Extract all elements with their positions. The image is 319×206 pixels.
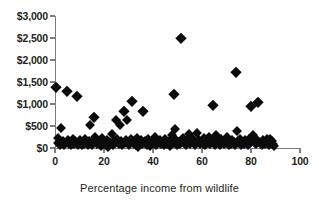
x-axis-title: Percentage income from wildlife <box>0 182 319 194</box>
scatter-point <box>56 123 66 133</box>
scatter-point <box>71 90 82 101</box>
scatter-chart-figure: $0$500$1,000$1,500$2,000$2,500$3,000 020… <box>0 0 319 206</box>
data-points-layer <box>0 0 319 206</box>
scatter-point <box>61 85 72 96</box>
scatter-point <box>127 96 138 107</box>
plot-area: $0$500$1,000$1,500$2,000$2,500$3,000 020… <box>0 0 319 206</box>
scatter-point <box>208 100 219 111</box>
scatter-point <box>175 32 186 43</box>
scatter-point <box>231 67 242 78</box>
scatter-point <box>169 89 180 100</box>
scatter-point <box>138 105 149 116</box>
